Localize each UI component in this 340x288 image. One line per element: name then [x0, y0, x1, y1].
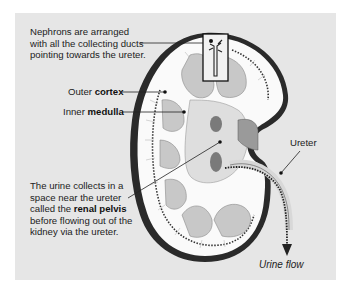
ureter-label-text: Ureter	[290, 137, 317, 148]
renal-pelvis-label-line: space near the ureter	[30, 192, 132, 204]
glomerulus-dot	[209, 39, 213, 43]
nephrons-label-line: Nephrons are arranged	[30, 26, 146, 38]
nephrons-label: Nephrons are arranged with all the colle…	[30, 26, 146, 61]
urine-flow-label: Urine flow	[259, 259, 303, 271]
ureter-marker-dot	[279, 171, 283, 175]
urine-flow-arrowhead	[282, 244, 292, 256]
renal-pelvis-label-line: called the renal pelvis	[30, 203, 132, 215]
nephrons-label-line: with all the collecting ducts	[30, 38, 146, 50]
outer-cortex-prefix: Outer	[68, 86, 95, 97]
outer-cortex-label: Outer cortex	[68, 86, 123, 98]
nephron-inset-box	[203, 34, 228, 81]
nephrons-label-line: pointing towards the ureter.	[30, 49, 146, 61]
renal-pelvis-label-line: The urine collects in a	[30, 180, 132, 192]
inner-medulla-term: medulla	[88, 106, 124, 117]
renal-pelvis-label: The urine collects in a space near the u…	[30, 180, 132, 238]
renal-pelvis-prefix: called the	[30, 203, 74, 214]
medulla-marker-dot	[182, 110, 186, 114]
outer-cortex-term: cortex	[95, 86, 124, 97]
renal-pelvis-label-line: kidney via the ureter.	[30, 226, 132, 238]
vessel-upper	[210, 116, 222, 132]
renal-pelvis-term: renal pelvis	[74, 203, 127, 214]
pelvis-marker-dot	[218, 140, 222, 144]
ureter-label: Ureter	[290, 137, 317, 149]
ureter-leader-line	[281, 151, 300, 173]
urine-flow-label-text: Urine flow	[259, 259, 303, 270]
cortex-marker-dot	[163, 90, 167, 94]
inner-medulla-label: Inner medulla	[63, 106, 124, 118]
vessel-lower	[210, 152, 222, 172]
renal-pelvis-label-line: before flowing out of the	[30, 215, 132, 227]
inner-medulla-prefix: Inner	[63, 106, 88, 117]
